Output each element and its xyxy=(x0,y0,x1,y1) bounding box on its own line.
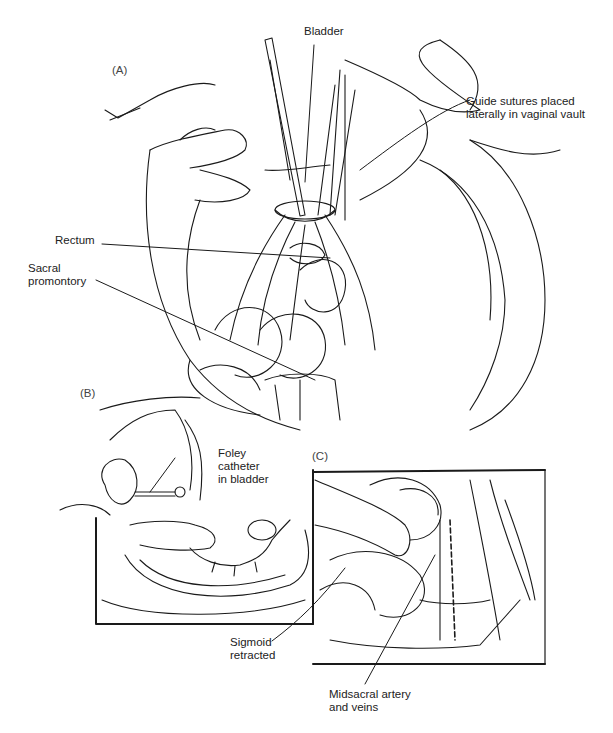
panel-tag-a: (A) xyxy=(112,64,127,76)
label-foley-catheter: Foley catheter in bladder xyxy=(218,447,269,486)
label-midsacral-vessels: Midsacral artery and veins xyxy=(329,688,411,714)
panel-tag-b: (B) xyxy=(80,387,95,399)
label-guide-sutures: Guide sutures placed laterally in vagina… xyxy=(466,95,585,121)
label-bladder: Bladder xyxy=(304,25,344,38)
label-sacral-promontory: Sacral promontory xyxy=(28,262,86,288)
label-sigmoid-retracted: Sigmoid retracted xyxy=(230,636,275,662)
label-rectum: Rectum xyxy=(55,234,95,247)
panel-b-drawing xyxy=(60,397,313,624)
panel-tag-c: (C) xyxy=(312,450,328,462)
